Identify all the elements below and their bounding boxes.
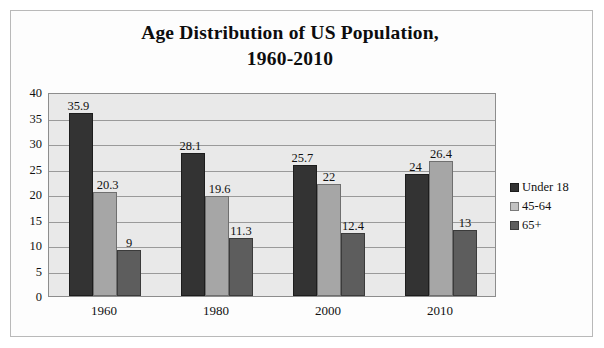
bar[interactable]: 35.9 (69, 113, 93, 296)
y-axis-tick-label: 15 (14, 215, 42, 227)
bar[interactable]: 9 (117, 250, 141, 296)
y-axis-tick-label: 5 (14, 266, 42, 278)
legend-item[interactable]: 65+ (510, 216, 590, 235)
x-axis-tick-label: 1960 (48, 303, 160, 319)
bar[interactable]: 20.3 (93, 192, 117, 296)
bar[interactable]: 25.7 (293, 165, 317, 296)
y-axis-tick-label: 10 (14, 240, 42, 252)
bar-value-label: 28.1 (179, 140, 201, 153)
bar-group: 2426.413 (405, 94, 477, 296)
bar[interactable]: 19.6 (205, 196, 229, 296)
bar-value-label: 35.9 (67, 100, 89, 113)
chart-title-line-2: 1960-2010 (40, 46, 540, 72)
x-axis-labels: 1960198020002010 (48, 303, 496, 323)
chart-page: Age Distribution of US Population, 1960-… (0, 0, 604, 348)
bar-value-label: 11.3 (230, 225, 251, 238)
bar-group: 25.72212.4 (293, 94, 365, 296)
bar-group: 28.119.611.3 (181, 94, 253, 296)
bar-value-label: 13 (459, 217, 472, 230)
y-axis-tick-label: 25 (14, 164, 42, 176)
x-axis-tick-label: 2000 (272, 303, 384, 319)
legend-swatch-icon (510, 183, 519, 192)
legend-swatch-icon (510, 202, 519, 211)
bar-value-label: 25.7 (291, 152, 313, 165)
bar-value-label: 26.4 (430, 148, 452, 161)
bar[interactable]: 13 (453, 230, 477, 296)
bar[interactable]: 28.1 (181, 153, 205, 296)
legend-item[interactable]: 45-64 (510, 197, 590, 216)
y-axis-tick-label: 20 (14, 189, 42, 201)
bar[interactable]: 26.4 (429, 161, 453, 296)
bar[interactable]: 24 (405, 174, 429, 296)
bar-value-label: 12.4 (342, 220, 364, 233)
x-axis-tick-label: 1980 (160, 303, 272, 319)
bar[interactable]: 11.3 (229, 238, 253, 296)
bar-value-label: 9 (126, 237, 132, 250)
bar[interactable]: 12.4 (341, 233, 365, 296)
chart-legend: Under 1845-6465+ (510, 178, 590, 235)
legend-label: 45-64 (522, 199, 551, 214)
x-axis-tick-label: 2010 (384, 303, 496, 319)
y-axis-tick-label: 0 (14, 291, 42, 303)
plot-area: 35.920.3928.119.611.325.72212.42426.413 (48, 93, 496, 297)
y-axis-tick-label: 40 (14, 87, 42, 99)
legend-swatch-icon (510, 221, 519, 230)
chart-title: Age Distribution of US Population, 1960-… (40, 20, 540, 72)
bar-value-label: 19.6 (209, 183, 231, 196)
bar-value-label: 20.3 (97, 179, 119, 192)
legend-label: 65+ (522, 218, 542, 233)
bar-value-label: 24 (409, 161, 422, 174)
y-axis-tick-label: 30 (14, 138, 42, 150)
legend-label: Under 18 (522, 180, 569, 195)
y-axis-tick-label: 35 (14, 113, 42, 125)
legend-item[interactable]: Under 18 (510, 178, 590, 197)
bar[interactable]: 22 (317, 184, 341, 296)
bar-value-label: 22 (323, 171, 336, 184)
bar-group: 35.920.39 (69, 94, 141, 296)
chart-title-line-1: Age Distribution of US Population, (141, 22, 439, 43)
